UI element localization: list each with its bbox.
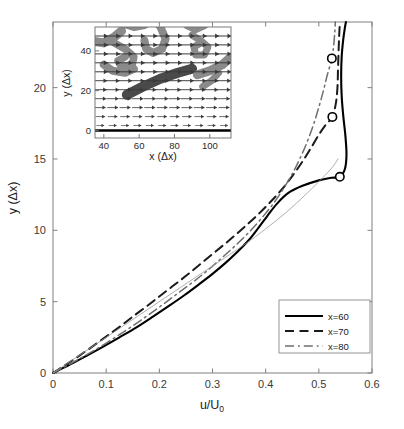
x-tick-label: 0.3 <box>205 378 220 390</box>
legend-label-x=60[interactable]: x=60 <box>328 311 349 322</box>
inset-x-axis-title: x (Δx) <box>149 150 176 162</box>
y-tick-label: 5 <box>40 296 46 308</box>
inset-x-tick-label: 60 <box>134 140 145 151</box>
figure-container: 00.10.20.30.40.50.6 05101520 u/U0 y (Δx)… <box>0 0 404 429</box>
marker-x=60 <box>336 173 344 181</box>
y-tick-label: 20 <box>34 82 46 94</box>
legend-label-x=80[interactable]: x=80 <box>328 341 349 352</box>
figure-canvas: 00.10.20.30.40.50.6 05101520 u/U0 y (Δx)… <box>0 0 404 429</box>
inset-x-tick-label: 40 <box>99 140 110 151</box>
inset-y-axis-title: y (Δx) <box>60 69 72 96</box>
marker-x=80 <box>328 54 336 62</box>
legend-label-x=70[interactable]: x=70 <box>328 326 349 337</box>
y-tick-label: 10 <box>34 224 46 236</box>
x-tick-label: 0.5 <box>311 378 326 390</box>
inset-y-tick-label: 20 <box>80 85 91 96</box>
x-tick-label: 0.1 <box>99 378 114 390</box>
legend-box <box>279 300 370 353</box>
x-tick-label: 0 <box>50 378 56 390</box>
y-tick-label: 15 <box>34 153 46 165</box>
y-tick-label: 0 <box>40 367 46 379</box>
inset-y-tick-label: 40 <box>80 45 91 56</box>
marker-x=70 <box>328 113 336 121</box>
inset-y-tick-label: 0 <box>86 125 91 136</box>
legend[interactable]: x=60x=70x=80 <box>279 300 370 353</box>
y-axis-title: y (Δx) <box>6 182 20 215</box>
x-tick-label: 0.4 <box>258 378 273 390</box>
x-tick-label: 0.2 <box>152 378 167 390</box>
x-tick-label: 0.6 <box>364 378 379 390</box>
inset-x-tick-label: 100 <box>202 140 218 151</box>
